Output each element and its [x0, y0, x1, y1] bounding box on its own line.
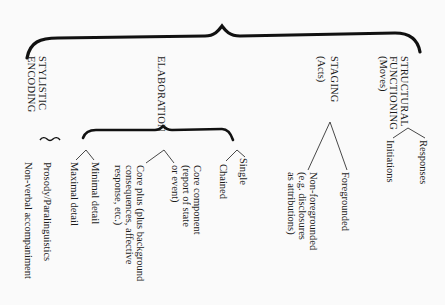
node-non-verbal: Non-verbal accompaniment: [23, 162, 34, 279]
dimension-stylistic-encoding: STYLISTIC ENCODING: [26, 56, 48, 112]
node-single: Single: [238, 158, 249, 185]
node-core-component: Core component (report of state or event…: [170, 165, 203, 235]
staging-sub: (Acts): [316, 56, 327, 82]
node-non-foregrounded: Non-foregrounded (e.g. disclosures as at…: [286, 172, 319, 250]
node-responses: Responses: [418, 140, 429, 184]
dimension-structural-functioning: STRUCTURAL FUNCTIONING: [388, 56, 410, 130]
diagram-lines: [0, 0, 445, 305]
dimension-staging: STAGING: [329, 56, 340, 103]
root-brace: [27, 26, 420, 58]
node-core-plus: Core plus (plus background consequences,…: [113, 165, 146, 281]
node-maximal-detail: Maximal detail: [69, 162, 80, 226]
stylistic-brace: [40, 138, 60, 141]
node-minimal-detail: Minimal detail: [90, 162, 101, 224]
node-prosody: Prosody/Paralinguistics: [42, 162, 53, 261]
node-initiations: Initiations: [385, 140, 396, 183]
node-foregrounded: Foregrounded: [340, 172, 351, 231]
rotated-taxonomy-diagram: STRUCTURAL FUNCTIONING (Moves) Responses…: [0, 0, 445, 305]
structural-functioning-sub: (Moves): [378, 56, 389, 92]
dimension-elaboration: ELABORATION: [156, 56, 167, 132]
node-chained: Chained: [218, 164, 229, 199]
